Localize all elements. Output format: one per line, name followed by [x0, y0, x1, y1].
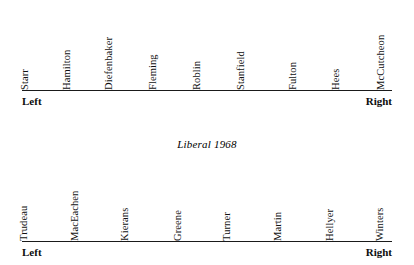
tick-label: MacEachen: [70, 191, 80, 241]
tick-label: Greene: [173, 210, 183, 241]
tick-label: Hamilton: [62, 50, 72, 90]
axis-right-endpoint-label: Right: [0, 246, 392, 258]
tick-label: Trudeau: [19, 206, 29, 241]
tick-label: Winters: [375, 207, 385, 241]
axis-line: [22, 241, 392, 242]
tick-label: Diefenbaker: [104, 37, 114, 90]
tick-label: Fleming: [148, 54, 158, 90]
tick-label: Hellyer: [325, 209, 335, 241]
scale-title: Liberal 1968: [0, 138, 414, 150]
tick-label: Fulton: [288, 62, 298, 90]
tick-label: Kierans: [120, 208, 130, 241]
tick-label: Hees: [331, 69, 341, 90]
tick-label: Turner: [222, 212, 232, 241]
axis-right-endpoint-label: Right: [0, 95, 392, 107]
tick-label-band: StarrHamiltonDiefenbakerFlemingRoblinSta…: [0, 8, 414, 90]
tick-label: Roblin: [192, 61, 202, 90]
tick-label: Starr: [20, 69, 30, 90]
tick-label: McCutcheon: [376, 35, 386, 90]
tick-label: Martin: [273, 212, 283, 241]
tick-label-band: TrudeauMacEachenKieransGreeneTurnerMarti…: [0, 160, 414, 241]
ideological-scales-figure: StarrHamiltonDiefenbakerFlemingRoblinSta…: [0, 0, 414, 265]
tick-label: Stanfield: [236, 51, 246, 90]
axis-line: [22, 90, 392, 91]
